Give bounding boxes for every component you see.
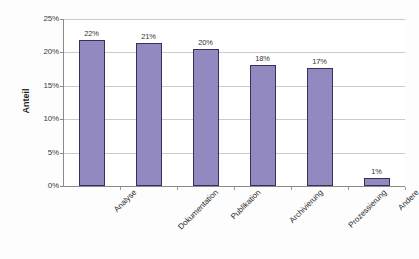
y-axis-tick-mark	[60, 186, 63, 187]
y-axis-tick-mark	[60, 19, 63, 20]
gridline	[63, 119, 405, 120]
bar-value-label: 22%	[74, 29, 110, 38]
plot-area: 22%21%20%18%17%1%	[63, 19, 405, 187]
bar-value-label: 21%	[131, 32, 167, 41]
y-axis-title: Anteil	[21, 71, 31, 131]
gridline	[63, 86, 405, 87]
y-axis-line	[63, 19, 64, 187]
bar	[193, 49, 219, 186]
bar-value-label: 1%	[359, 167, 395, 176]
y-axis-tick-mark	[60, 86, 63, 87]
y-axis-tick-label: 0%	[20, 181, 59, 190]
x-axis-category-label: Andere	[396, 188, 419, 212]
bar	[79, 40, 105, 186]
x-axis-category-label: Archivierung	[287, 188, 324, 225]
y-axis-tick-label: 20%	[20, 47, 59, 56]
bar-value-label: 18%	[245, 54, 281, 63]
bar-value-label: 20%	[188, 38, 224, 47]
bar-value-label: 17%	[302, 57, 338, 66]
bar	[364, 178, 390, 186]
x-axis-category-label: Publikation	[229, 188, 262, 221]
y-axis-tick-mark	[60, 52, 63, 53]
x-axis-tick-mark	[405, 187, 406, 190]
y-axis-tick-mark	[60, 153, 63, 154]
y-axis-tick-label: 25%	[20, 14, 59, 23]
x-axis-category-label: Dokumentation	[176, 188, 219, 231]
y-axis-tick-mark	[60, 119, 63, 120]
gridline	[63, 19, 405, 20]
x-axis-category-label: Analyse	[112, 188, 138, 214]
gridline	[63, 52, 405, 53]
bar	[250, 65, 276, 186]
bar	[307, 68, 333, 186]
x-axis-category-label: Prozessierung	[346, 188, 388, 230]
bar-chart: 0%5%10%15%20%25% Anteil 22%21%20%18%17%1…	[0, 0, 419, 259]
gridline	[63, 153, 405, 154]
y-axis-tick-label: 5%	[20, 148, 59, 157]
bar	[136, 43, 162, 186]
x-axis-category-labels: AnalyseDokumentationPublikationArchivier…	[63, 188, 405, 258]
